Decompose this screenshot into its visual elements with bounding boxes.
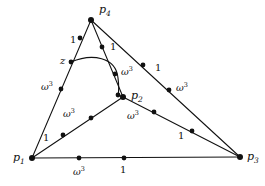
- marker-node: [122, 156, 127, 161]
- edge-label-p4p1-omega3: ω3: [41, 81, 53, 92]
- edge-label-base-omega3: ω3: [73, 166, 85, 177]
- marker-node: [59, 87, 64, 92]
- vertex-p3: [237, 154, 243, 160]
- edge-label-p4p1-one: 1: [70, 35, 76, 45]
- edge-label-p2p3-omega3: ω3: [127, 110, 139, 121]
- marker-node: [190, 129, 195, 134]
- marker-node: [100, 45, 105, 50]
- marker-nodes-group: [59, 36, 195, 161]
- edge-label-p4p2-one: 1: [110, 42, 116, 52]
- vertex-p4: [88, 17, 94, 23]
- vertex-p2: [120, 94, 126, 100]
- marker-node: [78, 36, 83, 41]
- vertex-p1: [29, 155, 35, 161]
- edge-label-p4p2-omega3: ω3: [121, 66, 133, 77]
- marker-node: [141, 63, 146, 68]
- edge-label-p4p3-one: 1: [155, 63, 161, 73]
- marker-node: [113, 72, 118, 77]
- edge-label-p4p3-omega3: ω3: [176, 82, 188, 93]
- marker-node: [89, 116, 94, 121]
- edge-label-p4p1-one-lower: 1: [43, 133, 49, 143]
- vertex-label-p1: p1: [13, 152, 25, 166]
- edge-p1-p3: [32, 157, 240, 158]
- edge-label-p1p2-omega3: ω3: [63, 108, 75, 119]
- marker-node: [69, 60, 74, 65]
- vertex-label-p4: p4: [99, 4, 111, 18]
- marker-node-arc-end: [116, 93, 121, 98]
- vertex-label-p3: p3: [247, 151, 259, 165]
- edge-label-z: z: [60, 56, 65, 66]
- marker-node: [77, 156, 82, 161]
- edge-label-base-one: 1: [120, 165, 126, 175]
- edge-label-p2p3-one: 1: [178, 131, 184, 141]
- marker-node: [61, 133, 66, 138]
- figure-canvas: p4 p2 p1 p3 1 z ω3 1 1 ω3 1 ω3 ω3 ω3 1 ω…: [0, 0, 265, 186]
- vertex-label-p2: p2: [131, 90, 143, 104]
- edge-p2-p3: [123, 97, 240, 157]
- edge-p1-p2: [32, 97, 123, 158]
- marker-node: [167, 88, 172, 93]
- marker-node: [152, 110, 157, 115]
